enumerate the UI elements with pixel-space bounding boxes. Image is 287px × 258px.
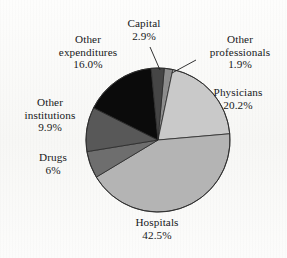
slice-label-physicians: Physicians 20.2%	[198, 86, 278, 111]
slice-label-other-professionals: Other professionals 1.9%	[196, 33, 284, 71]
slice-label-drugs-name: Drugs	[22, 151, 84, 164]
slice-label-other-expenditures: Other expenditures 16.0%	[38, 33, 138, 71]
slice-label-capital-name: Capital	[113, 17, 175, 30]
pie-chart-figure: Capital 2.9% Other professionals 1.9% Ph…	[0, 0, 287, 258]
slice-label-hospitals: Hospitals 42.5%	[112, 216, 202, 241]
leader-line-capital	[150, 47, 160, 70]
slice-label-other-institutions-value: 9.9%	[8, 121, 92, 134]
slice-label-other-professionals-name-2: professionals	[196, 46, 284, 59]
slice-label-drugs: Drugs 6%	[22, 151, 84, 176]
slice-label-other-professionals-name-1: Other	[196, 33, 284, 46]
slice-label-other-expenditures-value: 16.0%	[38, 58, 138, 71]
slice-label-other-institutions-name-1: Other	[8, 96, 92, 109]
slice-label-hospitals-name: Hospitals	[112, 216, 202, 229]
slice-label-hospitals-value: 42.5%	[112, 229, 202, 242]
slice-label-other-expenditures-name-2: expenditures	[38, 46, 138, 59]
slice-label-other-expenditures-name-1: Other	[38, 33, 138, 46]
slice-label-other-institutions: Other institutions 9.9%	[8, 96, 92, 134]
slice-label-physicians-name: Physicians	[198, 86, 278, 99]
slice-label-other-professionals-value: 1.9%	[196, 58, 284, 71]
leader-line-other-professionals	[172, 60, 196, 73]
slice-label-physicians-value: 20.2%	[198, 99, 278, 112]
slice-label-other-institutions-name-2: institutions	[8, 109, 92, 122]
slice-label-drugs-value: 6%	[22, 164, 84, 177]
chart-area: Capital 2.9% Other professionals 1.9% Ph…	[0, 0, 287, 258]
